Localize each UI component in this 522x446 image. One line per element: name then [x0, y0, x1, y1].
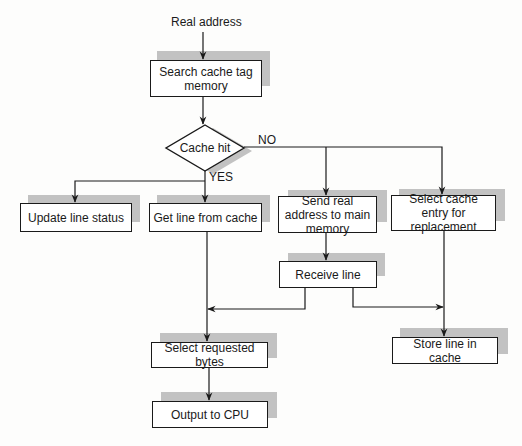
- branch-label-no: NO: [258, 133, 276, 147]
- node-update-line-status: Update line status: [20, 203, 132, 232]
- input-label-real-address: Real address: [171, 15, 242, 29]
- node-get-line-from-cache: Get line from cache: [149, 203, 262, 232]
- branch-label-yes: YES: [209, 170, 233, 184]
- node-select-requested-bytes: Select requested bytes: [151, 342, 268, 368]
- node-output-to-cpu: Output to CPU: [152, 401, 268, 428]
- flowchart-canvas: Real address Cache hit NO YES Search cac…: [0, 0, 522, 446]
- node-send-real-address: Send real address to main memory: [278, 196, 377, 233]
- decision-cache-hit-label: Cache hit: [166, 141, 244, 155]
- node-select-cache-entry: Select cache entry for replacement: [391, 195, 496, 231]
- node-store-line-in-cache: Store line in cache: [392, 337, 498, 364]
- node-receive-line: Receive line: [279, 261, 377, 288]
- node-search-cache-tag: Search cache tag memory: [150, 60, 262, 97]
